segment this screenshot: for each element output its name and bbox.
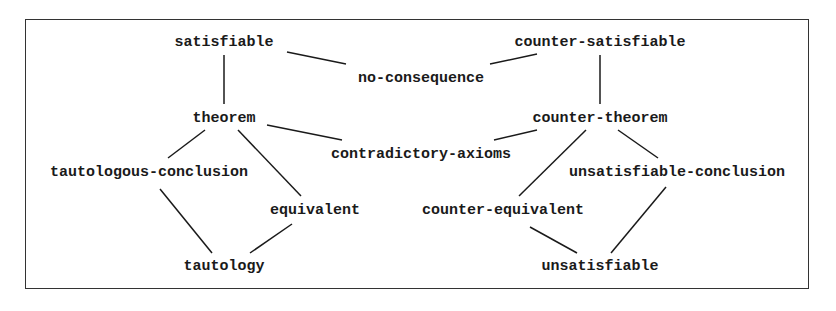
- node-theorem: theorem: [192, 111, 255, 126]
- edge-unsatisfiable-conclusion-unsatisfiable: [611, 187, 666, 253]
- node-tautologous-conclusion: tautologous-conclusion: [50, 165, 248, 180]
- edge-satisfiable-no-consequence: [287, 52, 346, 64]
- node-equivalent: equivalent: [270, 203, 360, 218]
- edge-counter-theorem-contradictory-axioms: [494, 130, 537, 140]
- edge-theorem-tautologous-conclusion: [168, 130, 205, 158]
- edge-counter-theorem-unsatisfiable-conclusion: [618, 130, 658, 158]
- node-no-consequence: no-consequence: [358, 71, 484, 86]
- node-contradictory-axioms: contradictory-axioms: [331, 147, 511, 162]
- edge-equivalent-tautology: [250, 224, 292, 253]
- edge-counter-satisfiable-no-consequence: [490, 54, 537, 64]
- edge-counter-equivalent-unsatisfiable: [530, 227, 577, 253]
- edge-theorem-contradictory-axioms: [267, 125, 342, 140]
- node-counter-equivalent: counter-equivalent: [422, 203, 584, 218]
- node-tautology: tautology: [183, 259, 264, 274]
- node-unsatisfiable-conclusion: unsatisfiable-conclusion: [569, 165, 785, 180]
- node-counter-satisfiable: counter-satisfiable: [514, 35, 685, 50]
- node-unsatisfiable: unsatisfiable: [541, 259, 658, 274]
- node-counter-theorem: counter-theorem: [532, 111, 667, 126]
- edge-tautologous-conclusion-tautology: [160, 189, 212, 253]
- node-satisfiable: satisfiable: [174, 35, 273, 50]
